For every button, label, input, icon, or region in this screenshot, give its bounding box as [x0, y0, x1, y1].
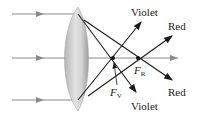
- focal-point-red: [136, 56, 140, 60]
- axis-arrow-icon: [170, 55, 178, 61]
- label-violet-bottom: Violet: [131, 100, 158, 112]
- diagram-canvas: [0, 0, 200, 126]
- label-violet-top: Violet: [131, 6, 158, 18]
- ray-arrow-icon: [36, 55, 44, 61]
- label-focal-red: FR: [134, 64, 145, 78]
- label-red-top: Red: [168, 20, 186, 32]
- incoming-rays: [12, 11, 178, 103]
- label-red-bottom: Red: [168, 86, 186, 98]
- ray-arrow-icon: [36, 97, 44, 103]
- focal-point-violet: [111, 56, 115, 60]
- chromatic-aberration-diagram: Violet Red Red Violet FR FV: [0, 0, 200, 126]
- ray-arrow-icon: [36, 11, 44, 17]
- refracted-rays: [78, 14, 172, 100]
- label-focal-violet: FV: [110, 86, 122, 100]
